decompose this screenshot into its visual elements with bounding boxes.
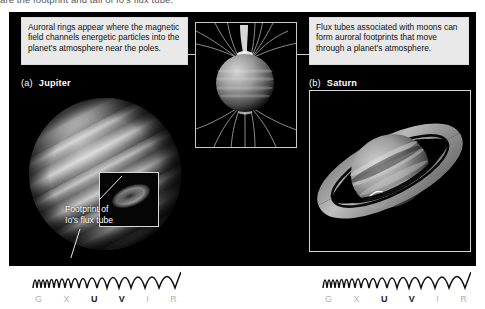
- spectrum-letter-u: U: [91, 294, 98, 308]
- spectrum-letter-i: I: [146, 294, 149, 308]
- panel-label-saturn: (b)Saturn: [309, 78, 357, 88]
- saturn-image: [309, 90, 471, 252]
- spectrum-letters-right: G X U V I R: [321, 294, 471, 308]
- spectrum-letter-v-2: V: [409, 294, 415, 308]
- caption-top-text: are the footprint and tail of Io's flux …: [0, 0, 300, 5]
- panel-name-jupiter: Jupiter: [39, 78, 71, 88]
- figure-plate: Auroral rings appear where the magnetic …: [9, 12, 476, 266]
- spectrum-letter-v: V: [119, 294, 125, 308]
- spectrum-letter-x-2: X: [353, 294, 359, 308]
- spectrum-letter-g: G: [35, 294, 42, 308]
- panel-label-jupiter: (a)Jupiter: [21, 78, 71, 88]
- figure-page: are the footprint and tail of Io's flux …: [0, 0, 485, 309]
- panel-name-saturn: Saturn: [327, 78, 357, 88]
- spectrum-letter-x: X: [63, 294, 69, 308]
- spectrum-letters-left: G X U V I R: [31, 294, 181, 308]
- jupiter-annotation-lines: [21, 90, 189, 258]
- panel-letter-a: (a): [21, 78, 33, 88]
- spectrum-letter-g-2: G: [325, 294, 332, 308]
- saturn-svg: [310, 91, 470, 251]
- footprint-label-line2: Io's flux tube: [65, 215, 113, 226]
- spectrum-wave-left: [31, 268, 181, 296]
- spectrum-letter-u-2: U: [381, 294, 388, 308]
- magnetosphere-diagram: [195, 22, 297, 148]
- callout-left: Auroral rings appear where the magnetic …: [21, 17, 188, 65]
- spectrum-letter-i-2: I: [436, 294, 439, 308]
- jupiter-image: Footprint of Io's flux tube: [21, 90, 189, 258]
- callout-right: Flux tubes associated with moons can for…: [309, 17, 469, 65]
- magnetosphere-svg: [196, 23, 296, 147]
- spectrum-strip-right: G X U V I R: [321, 268, 471, 308]
- spectrum-letter-r-2: R: [460, 294, 467, 308]
- footprint-label-line1: Footprint of: [65, 204, 113, 215]
- jupiter-footprint-label: Footprint of Io's flux tube: [65, 204, 113, 225]
- spectrum-letter-r: R: [170, 294, 177, 308]
- spectrum-wave-right: [321, 268, 471, 296]
- spectrum-strip-left: G X U V I R: [31, 268, 181, 308]
- panel-letter-b: (b): [309, 78, 321, 88]
